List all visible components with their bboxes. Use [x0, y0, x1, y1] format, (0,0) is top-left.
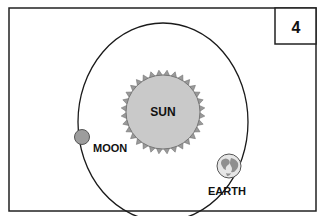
- moon: [75, 130, 90, 145]
- panel-number: 4: [292, 19, 301, 36]
- earth-label: EARTH: [208, 185, 246, 197]
- diagram-canvas: SUN MOON EARTH 4: [0, 0, 326, 216]
- moon-label: MOON: [93, 142, 127, 154]
- sun-label: SUN: [150, 105, 175, 119]
- earth: [217, 154, 241, 178]
